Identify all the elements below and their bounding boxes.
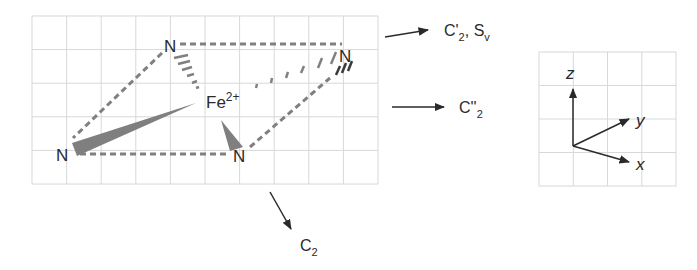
edge-left-top [73, 53, 162, 138]
y-axis-label: y [635, 111, 646, 130]
main-grid [32, 16, 378, 184]
atom-n-top: N [164, 37, 176, 56]
atom-n-left: N [56, 146, 68, 165]
x-axis-arrow [573, 146, 629, 162]
atom-n-right: N [339, 47, 351, 66]
label-c2-prime-sv: C'2, Sv [444, 22, 490, 43]
label-c2: C2 [300, 237, 318, 258]
atom-fe: Fe2+ [206, 90, 240, 112]
hashed-bond-right [256, 52, 336, 88]
axes [573, 89, 629, 162]
z-axis-label: z [565, 64, 575, 83]
atom-n-bottom: N [233, 147, 245, 166]
x-axis-label: x [635, 155, 645, 174]
arrow-c2-prime [385, 30, 428, 37]
diagram-canvas: N N N N Fe2+ C'2, Sv C''2 C2 z y x [0, 0, 697, 270]
edge-right-bottom [250, 78, 330, 147]
wedge-bond-left [72, 103, 196, 156]
label-c2-double-prime: C''2 [459, 99, 483, 120]
arrow-c2 [270, 192, 291, 229]
y-axis-arrow [573, 119, 629, 146]
axes-grid [539, 52, 676, 186]
